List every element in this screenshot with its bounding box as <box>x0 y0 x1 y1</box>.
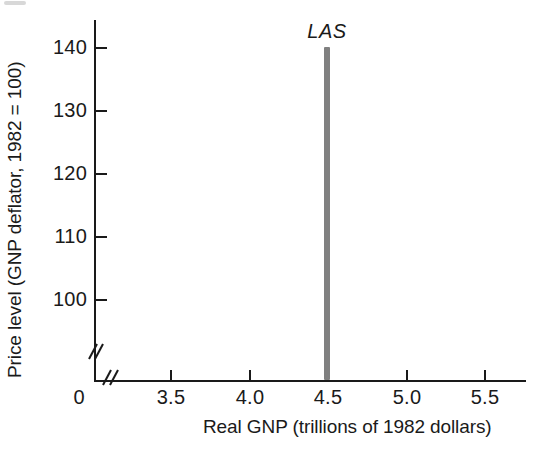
x-ticklabel-3-5: 3.5 <box>141 386 201 408</box>
x-axis-title: Real GNP (trillions of 1982 dollars) <box>203 414 492 440</box>
x-axis-line <box>94 380 526 382</box>
las-curve-label: LAS <box>307 20 346 42</box>
y-ticklabel-140: 140 <box>27 37 94 57</box>
y-tick-140 <box>96 47 107 49</box>
scan-artifact <box>4 1 26 5</box>
y-ticklabel-100: 100 <box>27 289 94 309</box>
x-ticklabel-5-5: 5.5 <box>455 386 515 408</box>
y-tick-130 <box>96 110 107 112</box>
x-tick-5-5 <box>484 370 486 381</box>
x-ticklabel-5-0: 5.0 <box>377 386 437 408</box>
y-axis-break-icon <box>88 342 104 366</box>
y-axis-title: Price level (GNP deflator, 1982 = 100) <box>2 18 28 378</box>
x-tick-5-0 <box>406 370 408 381</box>
y-tick-110 <box>96 236 107 238</box>
x-ticklabel-4-5: 4.5 <box>298 386 358 408</box>
y-tick-100 <box>96 299 107 301</box>
x-tick-4-0 <box>249 370 251 381</box>
y-axis-line <box>94 20 96 382</box>
x-ticklabel-4-0: 4.0 <box>220 386 280 408</box>
y-ticklabel-130: 130 <box>27 100 94 120</box>
axis-origin-label: 0 <box>66 386 92 408</box>
x-axis-break-icon <box>102 368 126 388</box>
las-curve-line <box>324 47 330 380</box>
y-tick-120 <box>96 173 107 175</box>
y-ticklabel-120: 120 <box>27 163 94 183</box>
chart-canvas: 140 130 120 110 100 3.5 4.0 4.5 5.0 5.5 … <box>0 0 553 449</box>
x-tick-3-5 <box>170 370 172 381</box>
y-ticklabel-110: 110 <box>27 226 94 246</box>
